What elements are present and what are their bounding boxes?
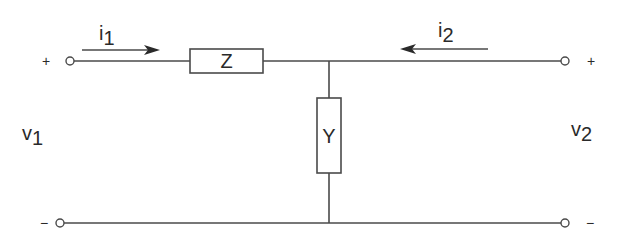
current-label-i1: i1 xyxy=(99,22,115,49)
terminal-right-top xyxy=(561,57,569,65)
circuit-diagram: Z Y + − + − i1 i2 v1 v2 xyxy=(0,0,621,241)
left-minus-sign: − xyxy=(40,215,48,231)
shunt-admittance-y: Y xyxy=(317,98,341,173)
z-label: Z xyxy=(220,50,232,72)
voltage-label-v1: v1 xyxy=(22,122,43,149)
series-impedance-z: Z xyxy=(190,49,263,73)
current-arrow-i1 xyxy=(82,45,160,55)
terminal-left-top xyxy=(66,57,74,65)
right-minus-sign: − xyxy=(586,215,594,231)
right-plus-sign: + xyxy=(587,53,595,69)
voltage-label-v2: v2 xyxy=(571,118,592,145)
terminal-right-bottom xyxy=(561,219,569,227)
terminal-left-bottom xyxy=(56,219,64,227)
current-label-i2: i2 xyxy=(438,19,454,46)
left-plus-sign: + xyxy=(42,53,50,69)
y-label: Y xyxy=(322,125,335,147)
